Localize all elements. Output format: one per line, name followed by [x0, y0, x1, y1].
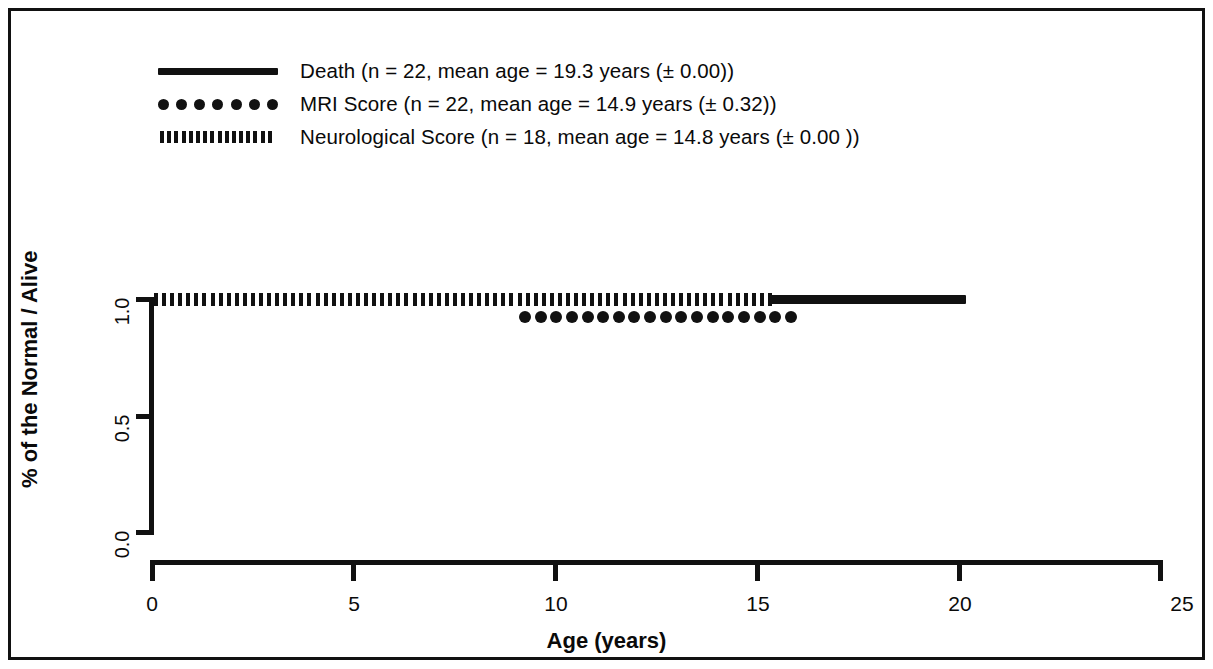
x-axis-label-10: 10 [526, 592, 586, 616]
y-axis-label-0-5: 0.5 [111, 415, 134, 495]
x-axis-label-5: 5 [324, 592, 384, 616]
series-mri-score [519, 310, 797, 323]
x-axis-tick-10 [553, 560, 558, 581]
x-axis-spine [150, 560, 1163, 565]
x-axis-label-25: 25 [1152, 592, 1212, 616]
series-death [770, 295, 966, 304]
plot-area: 0.0 0.5 1.0 % of the Normal / Alive 0 5 … [0, 0, 1213, 669]
y-axis-tick-1-0 [136, 297, 154, 302]
x-axis-tick-5 [351, 560, 356, 581]
x-axis-tick-20 [957, 560, 962, 581]
x-axis-label-15: 15 [728, 592, 788, 616]
x-axis-title: Age (years) [0, 628, 1213, 654]
y-axis-label-1-0: 1.0 [111, 298, 134, 378]
y-axis-tick-0-0 [136, 530, 154, 535]
x-axis-label-20: 20 [930, 592, 990, 616]
x-axis-label-0: 0 [122, 592, 182, 616]
series-neurological-score [154, 293, 772, 306]
x-axis-tick-25 [1158, 560, 1163, 581]
figure-canvas: Death (n = 22, mean age = 19.3 years (± … [0, 0, 1213, 669]
y-axis-title: % of the Normal / Alive [17, 308, 43, 488]
x-axis-tick-0 [150, 560, 155, 581]
y-axis-tick-0-5 [136, 414, 154, 419]
x-axis-tick-15 [755, 560, 760, 581]
